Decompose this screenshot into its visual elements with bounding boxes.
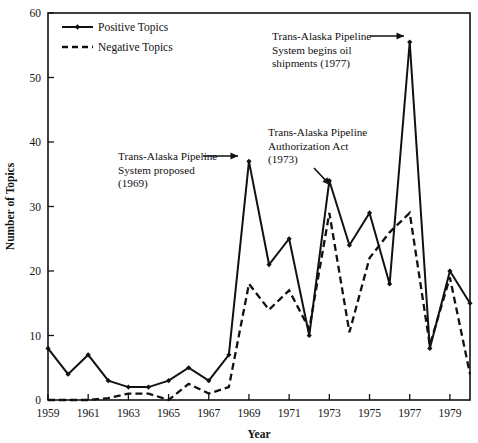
annotation-line: (1973) (268, 153, 298, 166)
annotation-line: (1969) (118, 177, 148, 190)
annotation-line: Trans-Alaska Pipeline (268, 126, 367, 138)
line-chart-canvas: 0102030405060 19591961196319651967196919… (0, 0, 478, 443)
annotation-line: System proposed (118, 164, 195, 176)
x-tick-label: 1971 (278, 407, 301, 419)
legend-label: Negative Topics (98, 41, 173, 54)
x-tick-label: 1973 (318, 407, 341, 419)
x-tick-label: 1977 (398, 407, 421, 419)
annotation-line: System begins oil (272, 44, 352, 56)
x-tick-label: 1967 (197, 407, 220, 419)
y-tick-label: 20 (30, 265, 42, 277)
annotation-line: Trans-Alaska Pipeline (118, 150, 217, 162)
y-tick-label: 40 (30, 136, 42, 148)
annotation-line: shipments (1977) (272, 57, 350, 70)
y-tick-label: 10 (30, 330, 42, 342)
y-tick-label: 60 (30, 7, 42, 19)
x-tick-label: 1961 (77, 407, 100, 419)
x-axis-title: Year (248, 428, 271, 440)
x-tick-label: 1975 (358, 407, 381, 419)
chart-figure: 0102030405060 19591961196319651967196919… (0, 0, 478, 443)
x-tick-label: 1965 (157, 407, 180, 419)
y-tick-label: 30 (30, 201, 42, 213)
x-tick-label: 1969 (237, 407, 260, 419)
y-tick-label: 50 (30, 72, 42, 84)
y-axis-title: Number of Topics (4, 162, 17, 250)
legend-label: Positive Topics (98, 21, 169, 34)
annotation-line: Authorization Act (268, 140, 349, 152)
annotation-line: Trans-Alaska Pipeline (272, 30, 371, 42)
x-tick-label: 1979 (438, 407, 461, 419)
x-tick-label: 1963 (117, 407, 140, 419)
x-tick-label: 1959 (37, 407, 60, 419)
y-tick-label: 0 (35, 394, 41, 406)
